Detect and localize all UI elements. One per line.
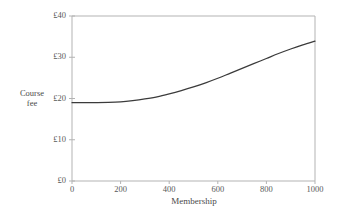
y-tick-label-30: £30 [24,52,66,61]
series-line-course-fee [72,41,315,102]
x-tick-label-600: 600 [198,185,238,194]
x-tick-label-0: 0 [52,185,92,194]
axis-frame [72,16,315,181]
y-axis-title-line1: Course [4,88,60,98]
y-axis-title: Course fee [4,88,60,108]
x-tick-label-400: 400 [149,185,189,194]
axis-frame-path [72,16,315,181]
y-tick-label-10: £10 [24,135,66,144]
x-tick-label-1000: 1000 [295,185,335,194]
x-axis-title: Membership [72,196,316,207]
y-axis-title-line2: fee [4,98,60,108]
y-tick-label-0: £0 [24,176,66,185]
chart-container: £0£10£20£30£40 02004006008001000 Course … [0,0,338,217]
y-tick-label-40: £40 [24,11,66,20]
x-tick-label-800: 800 [246,185,286,194]
x-tick-label-200: 200 [101,185,141,194]
